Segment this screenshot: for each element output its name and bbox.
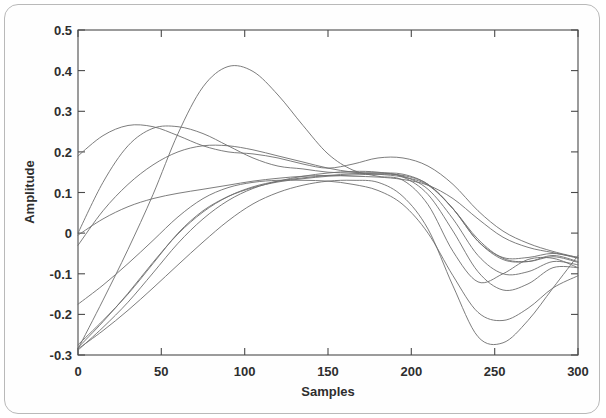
y-tick-label: 0.5 xyxy=(54,23,72,38)
x-tick-labels: 0 50 100 150 200 250 300 xyxy=(74,364,588,379)
x-tick-label: 50 xyxy=(154,364,168,379)
y-tick-label: 0.4 xyxy=(54,64,73,79)
y-axis-title: Amplitude xyxy=(22,160,37,224)
x-axis-title: Samples xyxy=(301,384,354,399)
y-tick-label: 0 xyxy=(65,226,72,241)
y-tick-label: 0.1 xyxy=(54,186,72,201)
chart-svg: 0.5 0.4 0.3 0.2 0.1 0 -0.1 -0.2 -0.3 0 5… xyxy=(0,0,606,418)
y-tick-label: 0.3 xyxy=(54,104,72,119)
y-tick-label: 0.2 xyxy=(54,145,72,160)
x-tick-label: 300 xyxy=(567,364,589,379)
x-tick-label: 200 xyxy=(400,364,422,379)
x-tick-label: 100 xyxy=(234,364,256,379)
y-tick-labels: 0.5 0.4 0.3 0.2 0.1 0 -0.1 -0.2 -0.3 xyxy=(50,23,73,363)
plot-background xyxy=(78,30,578,355)
figure-page: 0.5 0.4 0.3 0.2 0.1 0 -0.1 -0.2 -0.3 0 5… xyxy=(0,0,606,418)
y-tick-label: -0.2 xyxy=(50,307,72,322)
line-chart: 0.5 0.4 0.3 0.2 0.1 0 -0.1 -0.2 -0.3 0 5… xyxy=(0,0,606,418)
page-caption xyxy=(30,404,550,413)
x-tick-label: 250 xyxy=(484,364,506,379)
y-tick-label: -0.3 xyxy=(50,348,72,363)
y-tick-label: -0.1 xyxy=(50,267,72,282)
x-tick-label: 0 xyxy=(74,364,81,379)
x-tick-label: 150 xyxy=(317,364,339,379)
